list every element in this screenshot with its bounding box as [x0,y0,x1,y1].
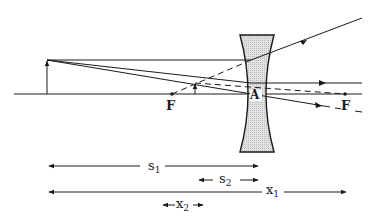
svg-text:s2: s2 [219,171,231,188]
virtual-ray-tail [355,111,362,112]
focal-point-left [170,92,174,96]
dimension-x1: x1 [49,182,346,199]
ray-direction-arrow [319,80,326,86]
ray-toward-focus-incoming [47,60,251,83]
focal-label-left: F [166,98,176,113]
svg-text:x2: x2 [176,196,189,213]
dimension-s2: s2 [199,171,258,188]
dimension-s1: s1 [49,158,258,175]
ray-diagram: F F A s1 s2 x1 x2 [0,0,373,221]
svg-text:x1: x1 [266,182,279,199]
virtual-ray-from-focus [172,60,251,94]
dimension-x2: x2 [163,196,203,213]
focal-point-right [343,92,347,96]
center-label: A [249,88,260,102]
svg-text:s1: s1 [148,158,160,175]
focal-label-right: F [341,98,351,113]
